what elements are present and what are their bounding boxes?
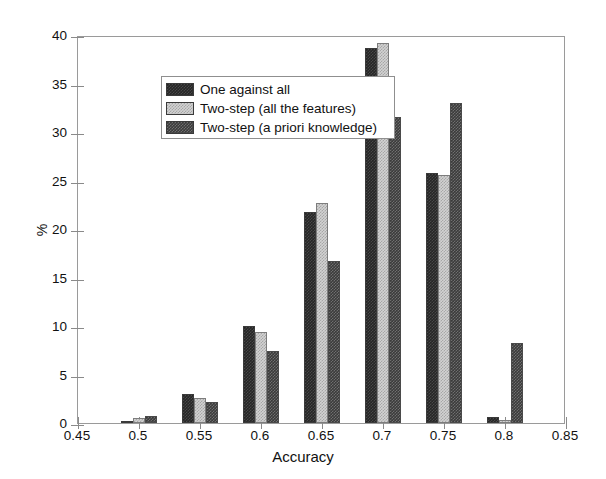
bar bbox=[194, 398, 206, 423]
x-tick bbox=[200, 423, 201, 429]
bar bbox=[316, 203, 328, 423]
y-tick bbox=[71, 328, 78, 329]
legend-item-0: One against all bbox=[166, 80, 389, 99]
x-tick bbox=[383, 423, 384, 429]
x-tick bbox=[139, 423, 140, 429]
legend-item-2: Two-step (a priori knowledge) bbox=[166, 118, 389, 137]
y-tick-inner bbox=[78, 134, 84, 135]
y-tick-inner bbox=[78, 377, 84, 378]
bar bbox=[267, 351, 279, 423]
x-tick-inner bbox=[566, 417, 567, 423]
x-tick-inner bbox=[78, 417, 79, 423]
x-tick-label: 0.7 bbox=[352, 429, 412, 443]
x-tick-label: 0.6 bbox=[230, 429, 290, 443]
x-tick bbox=[566, 423, 567, 429]
bar bbox=[487, 417, 499, 423]
x-tick-label: 0.55 bbox=[169, 429, 229, 443]
x-tick-label: 0.8 bbox=[474, 429, 534, 443]
y-tick-label: 20 bbox=[33, 223, 67, 237]
x-tick-label: 0.5 bbox=[108, 429, 168, 443]
legend-swatch-icon-1 bbox=[166, 102, 194, 115]
bar bbox=[328, 261, 340, 423]
bar bbox=[121, 421, 133, 423]
legend-label-1: Two-step (all the features) bbox=[200, 102, 356, 116]
x-tick bbox=[78, 423, 79, 429]
y-tick bbox=[71, 86, 78, 87]
bar bbox=[426, 173, 438, 423]
bar bbox=[389, 117, 401, 423]
y-tick-label: 25 bbox=[33, 175, 67, 189]
y-tick-label: 15 bbox=[33, 272, 67, 286]
x-tick-label: 0.65 bbox=[291, 429, 351, 443]
x-tick bbox=[444, 423, 445, 429]
x-tick-label: 0.85 bbox=[535, 429, 595, 443]
bar bbox=[133, 418, 145, 423]
y-tick-inner bbox=[78, 37, 84, 38]
x-tick-label: 0.75 bbox=[413, 429, 473, 443]
bar bbox=[511, 343, 523, 424]
bar bbox=[438, 175, 450, 423]
y-tick-inner bbox=[78, 183, 84, 184]
y-tick bbox=[71, 183, 78, 184]
y-tick bbox=[71, 377, 78, 378]
bar bbox=[206, 402, 218, 423]
y-tick bbox=[71, 280, 78, 281]
bar bbox=[255, 332, 267, 423]
x-tick bbox=[261, 423, 262, 429]
legend-swatch-icon-2 bbox=[166, 121, 194, 134]
y-tick-inner bbox=[78, 328, 84, 329]
y-tick bbox=[71, 134, 78, 135]
y-tick bbox=[71, 37, 78, 38]
bar bbox=[499, 420, 511, 423]
y-tick-label: 5 bbox=[33, 369, 67, 383]
bar bbox=[182, 394, 194, 423]
legend-label-0: One against all bbox=[200, 83, 290, 97]
x-axis-title: Accuracy bbox=[0, 448, 606, 465]
x-tick bbox=[322, 423, 323, 429]
y-tick bbox=[71, 425, 78, 426]
x-tick bbox=[505, 423, 506, 429]
bar bbox=[304, 212, 316, 423]
plot-area: One against all Two-step (all the featur… bbox=[77, 36, 565, 424]
legend-item-1: Two-step (all the features) bbox=[166, 99, 389, 118]
y-tick-inner bbox=[78, 231, 84, 232]
y-tick bbox=[71, 231, 78, 232]
bar bbox=[145, 416, 157, 423]
y-tick-label: 35 bbox=[33, 78, 67, 92]
histogram-figure: % 0510152025303540 0.450.50.550.60.650.7… bbox=[0, 0, 606, 479]
x-tick-label: 0.45 bbox=[47, 429, 107, 443]
y-tick-label: 30 bbox=[33, 126, 67, 140]
y-tick-inner bbox=[78, 86, 84, 87]
bar bbox=[450, 103, 462, 423]
y-tick-label: 10 bbox=[33, 320, 67, 334]
y-tick-label: 40 bbox=[33, 29, 67, 43]
legend: One against all Two-step (all the featur… bbox=[161, 76, 395, 139]
y-tick-inner bbox=[78, 280, 84, 281]
bar bbox=[243, 326, 255, 423]
legend-swatch-icon-0 bbox=[166, 83, 194, 96]
legend-label-2: Two-step (a priori knowledge) bbox=[200, 121, 377, 135]
